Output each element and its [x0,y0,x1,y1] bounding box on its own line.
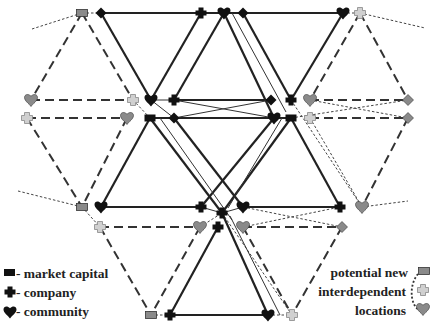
potential-community-node [194,221,207,233]
potential-market-capital-node [77,10,88,17]
community-node [237,201,250,213]
company-node [96,8,107,19]
svg-text:potential new: potential new [330,265,408,280]
company-node [238,8,249,19]
potential-company-node [287,310,298,321]
community-node [95,201,108,213]
market-capital-node [286,115,297,122]
potential-market-capital-icon [419,268,430,275]
community-node [262,309,275,321]
svg-text:- community: - community [16,304,89,319]
network-canvas: - market capital - company - community p… [0,0,437,327]
solid-edges [101,13,343,315]
legend-item-market-capital: - market capital [4,266,108,281]
legend-item-company: - company [5,285,77,300]
potential-community-node [356,201,369,213]
potential-company-node [22,113,33,124]
potential-community-icon [417,303,430,315]
svg-text:locations: locations [355,303,406,318]
svg-text:- company: - company [16,285,77,300]
potential-community-node [304,94,317,106]
company-icon [5,287,16,298]
potential-market-capital-node [77,204,88,211]
company-node [169,95,180,106]
company-node [213,222,224,233]
svg-text:interdependent: interdependent [318,284,406,299]
svg-text:- market capital: - market capital [16,266,108,281]
potential-company-node [403,113,414,124]
company-node [335,202,346,213]
company-node [165,310,176,321]
community-icon [4,306,17,318]
company-node [196,8,207,19]
company-node [286,95,297,106]
community-node [337,7,350,19]
potential-community-node [121,112,134,124]
interdependence-network-diagram: - market capital - company - community p… [0,0,437,327]
potential-company-node [95,222,106,233]
potential-market-capital-node [146,312,157,319]
legend-item-community: - community [4,304,90,319]
potential-company-icon [418,285,429,296]
potential-company-node [355,8,366,19]
legend-right: potential new interdependent locations [318,265,429,318]
potential-community-node [25,94,38,106]
potential-company-node [337,222,348,233]
community-node [145,94,158,106]
market-capital-icon [4,269,15,276]
potential-company-node [403,95,414,106]
community-node [218,7,231,19]
market-capital-node [145,115,156,122]
legend-left: - market capital - company - community [4,266,109,319]
